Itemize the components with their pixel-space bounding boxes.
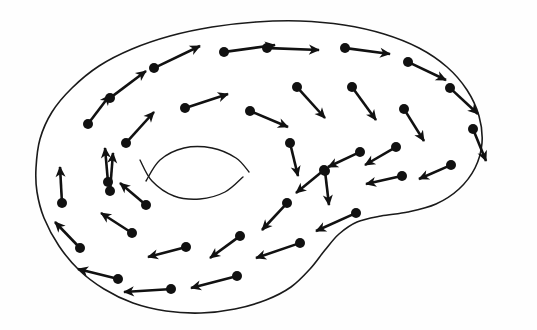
vector-base-point: [399, 104, 409, 114]
vector-base-point: [295, 238, 305, 248]
vector-base-point: [166, 284, 176, 294]
vector-base-point: [181, 242, 191, 252]
vector-base-point: [355, 147, 365, 157]
vector-base-point: [403, 57, 413, 67]
vector-base-point: [105, 93, 115, 103]
vector-base-point: [397, 171, 407, 181]
vector-base-point: [57, 198, 67, 208]
vector-base-point: [219, 47, 229, 57]
vector-base-point: [245, 106, 255, 116]
vector-base-point: [262, 43, 272, 53]
vector-base-point: [282, 198, 292, 208]
vector-base-point: [347, 82, 357, 92]
vector-base-point: [103, 177, 113, 187]
vector-base-point: [320, 166, 330, 176]
vector-base-point: [468, 124, 478, 134]
vector-field-diagram: [0, 0, 537, 330]
vector-base-point: [83, 119, 93, 129]
vector-base-point: [235, 231, 245, 241]
vector-base-point: [446, 160, 456, 170]
vector-base-point: [391, 142, 401, 152]
vector-arrow: [60, 167, 62, 200]
vector-base-point: [121, 138, 131, 148]
vector-base-point: [149, 63, 159, 73]
vector-base-point: [340, 43, 350, 53]
vector-base-point: [105, 186, 115, 196]
vector-base-point: [127, 228, 137, 238]
vector-base-point: [75, 243, 85, 253]
vector-base-point: [445, 83, 455, 93]
figure-container: Vector field on a genus-one surface A cl…: [0, 0, 537, 330]
vector-base-point: [113, 274, 123, 284]
vector-base-point: [351, 208, 361, 218]
vector-base-point: [141, 200, 151, 210]
vector-base-point: [292, 82, 302, 92]
vector-base-point: [180, 103, 190, 113]
vector-base-point: [232, 271, 242, 281]
vector-base-point: [285, 138, 295, 148]
